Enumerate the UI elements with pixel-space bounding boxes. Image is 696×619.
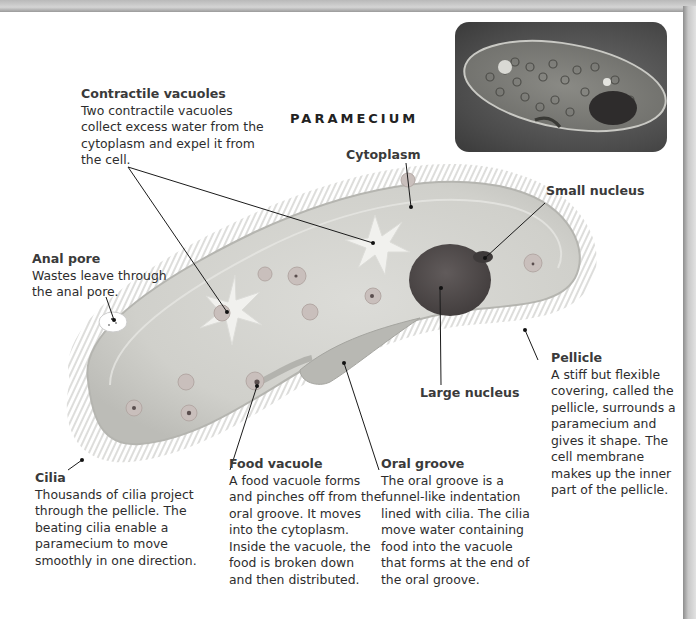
label-title: Oral groove (381, 456, 530, 473)
label-title: Pellicle (551, 350, 676, 367)
label-contractile-vacuoles: Contractile vacuoles Two contractile vac… (81, 86, 264, 169)
label-title: Contractile vacuoles (81, 86, 264, 103)
label-description: Two contractile vacuoles collect excess … (81, 103, 264, 169)
label-cilia: Cilia Thousands of cilia project through… (35, 470, 197, 569)
label-description: A food vacuole forms and pinches off fro… (229, 473, 381, 589)
label-title: Large nucleus (420, 385, 519, 402)
label-small-nucleus: Small nucleus (546, 183, 644, 200)
label-title: Small nucleus (546, 183, 644, 200)
label-food-vacuole: Food vacuole A food vacuole forms and pi… (229, 456, 381, 588)
label-description: A stiff but flexible covering, called th… (551, 367, 676, 499)
label-description: Wastes leave through the anal pore. (32, 268, 167, 301)
label-title: Anal pore (32, 251, 167, 268)
label-title: Food vacuole (229, 456, 381, 473)
label-title: Cilia (35, 470, 197, 487)
label-anal-pore: Anal pore Wastes leave through the anal … (32, 251, 167, 301)
label-oral-groove: Oral groove The oral groove is a funnel-… (381, 456, 530, 588)
label-description: The oral groove is a funnel-like indenta… (381, 473, 530, 589)
label-description: Thousands of cilia project through the p… (35, 487, 197, 570)
label-cytoplasm: Cytoplasm (346, 147, 421, 164)
label-large-nucleus: Large nucleus (420, 385, 519, 402)
anal-pore-shape (99, 312, 127, 332)
diagram-title: PARAMECIUM (290, 111, 418, 126)
label-title: Cytoplasm (346, 147, 421, 164)
label-pellicle: Pellicle A stiff but flexible covering, … (551, 350, 676, 499)
